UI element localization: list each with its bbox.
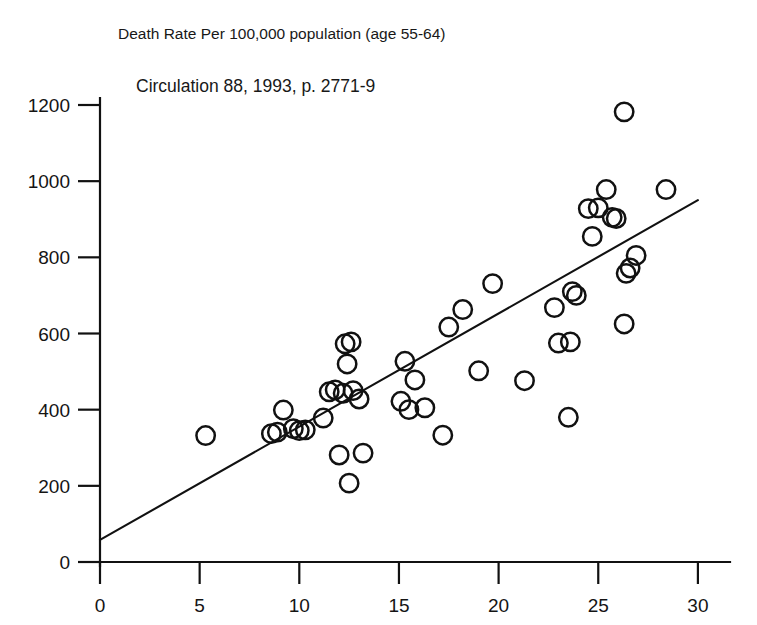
data-point (545, 298, 563, 316)
data-point (434, 426, 452, 444)
data-point (561, 333, 579, 351)
data-point (567, 286, 585, 304)
chart-canvas: Death Rate Per 100,000 population (age 5… (0, 0, 757, 625)
x-axis: 051015202530 (92, 562, 730, 616)
x-tick-label: 30 (687, 595, 708, 616)
data-point (515, 372, 533, 390)
chart-title: Death Rate Per 100,000 population (age 5… (118, 25, 445, 42)
data-point (406, 371, 424, 389)
data-point (597, 180, 615, 198)
y-tick-label: 1000 (28, 171, 70, 192)
data-point (338, 355, 356, 373)
x-tick-label: 25 (588, 595, 609, 616)
data-point (454, 300, 472, 318)
y-tick-label: 800 (38, 247, 70, 268)
chart-subtitle-citation: Circulation 88, 1993, p. 2771-9 (136, 76, 375, 96)
x-tick-label-group: 051015202530 (95, 595, 709, 616)
x-tick-label: 15 (388, 595, 409, 616)
y-tick-label: 600 (38, 324, 70, 345)
regression-line (100, 200, 698, 540)
data-point (615, 315, 633, 333)
data-point-group (196, 103, 675, 493)
y-axis: 020040060080010001200 (28, 95, 100, 573)
scatter-plot-figure: Death Rate Per 100,000 population (age 5… (0, 0, 757, 625)
x-tick-label: 5 (194, 595, 205, 616)
y-tick-label-group: 020040060080010001200 (28, 95, 70, 573)
data-point (274, 401, 292, 419)
data-point (340, 474, 358, 492)
data-point (583, 227, 601, 245)
data-point (354, 444, 372, 462)
data-point (440, 318, 458, 336)
data-point (314, 409, 332, 427)
data-point (483, 274, 501, 292)
y-tick-label: 400 (38, 400, 70, 421)
data-point (617, 264, 635, 282)
data-point (330, 446, 348, 464)
data-point (563, 282, 581, 300)
y-tick-group (78, 105, 100, 562)
data-point (469, 362, 487, 380)
x-tick-label: 0 (95, 595, 106, 616)
y-tick-label: 200 (38, 476, 70, 497)
data-point (657, 180, 675, 198)
data-point (559, 408, 577, 426)
data-point (615, 103, 633, 121)
y-tick-label: 1200 (28, 95, 70, 116)
y-tick-label: 0 (59, 552, 70, 573)
x-tick-label: 10 (289, 595, 310, 616)
x-tick-group (100, 562, 698, 584)
x-tick-label: 20 (488, 595, 509, 616)
data-point (196, 426, 214, 444)
